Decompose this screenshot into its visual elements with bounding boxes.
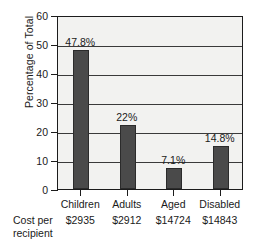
y-axis-tick (51, 190, 58, 191)
bar (73, 50, 89, 189)
y-axis-tick-label: 20 (24, 127, 48, 137)
bar-value-label: 47.8% (52, 37, 108, 48)
cost-label-line1: Cost per (13, 214, 53, 227)
x-axis-tick (127, 190, 128, 196)
x-axis-tick (173, 190, 174, 196)
bar (120, 125, 136, 189)
y-axis-tick-label: 30 (24, 98, 48, 108)
y-axis-tick-label: 0 (24, 185, 48, 195)
bar (166, 168, 182, 189)
x-axis-tick (80, 190, 81, 196)
y-axis-tick-label: 50 (24, 40, 48, 50)
y-axis-tick-label: 60 (24, 11, 48, 21)
x-axis-category-label: Disabled (190, 198, 250, 210)
y-axis-tick-label: 40 (24, 69, 48, 79)
cost-per-recipient-label: Cost per recipient (13, 214, 53, 240)
y-axis-tick-label: 10 (24, 156, 48, 166)
bar-value-label: 14.8% (192, 133, 248, 144)
cost-per-recipient-value: $14843 (190, 214, 250, 227)
bar-value-label: 7.1% (145, 155, 201, 166)
bar (213, 146, 229, 189)
cost-label-line2: recipient (13, 227, 53, 240)
bar-value-label: 22% (99, 112, 155, 123)
bar-chart-figure: Percentage of Total 0102030405060 47.8%2… (0, 0, 257, 245)
x-axis-tick (220, 190, 221, 196)
